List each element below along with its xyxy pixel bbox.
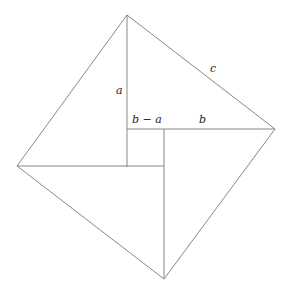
outer-square — [17, 15, 275, 279]
label-b: b — [199, 113, 206, 126]
label-c: c — [210, 62, 216, 75]
pythagorean-proof-diagram: a c b − a b — [0, 0, 286, 292]
label-a: a — [116, 84, 123, 97]
label-b-minus-a: b − a — [132, 113, 162, 126]
